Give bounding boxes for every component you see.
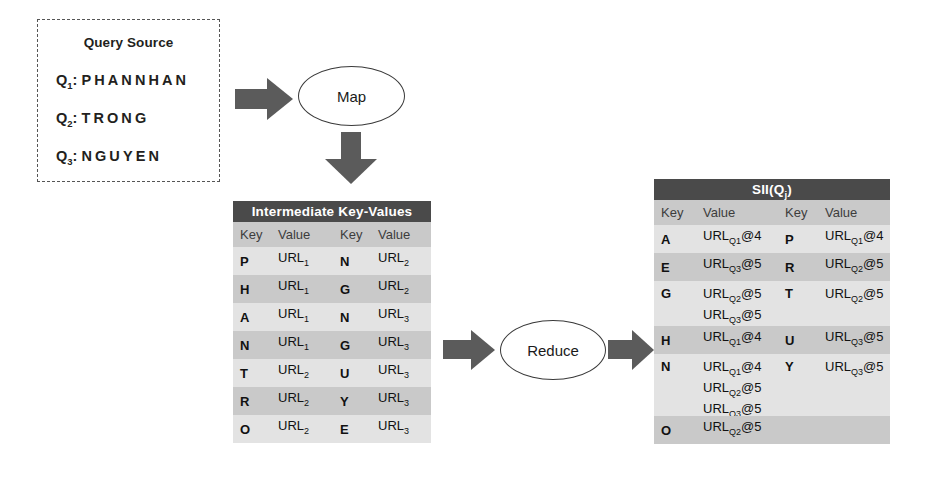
intermediate-key-cell: G bbox=[333, 275, 371, 303]
sii-value-cell: URLQ2@5 bbox=[696, 416, 778, 444]
sii-key-cell: A bbox=[654, 225, 696, 253]
sii-key-cell bbox=[778, 416, 818, 444]
query-label-1: Q1: bbox=[56, 72, 77, 88]
intermediate-value-cell: URL2 bbox=[271, 359, 333, 387]
sii-key-cell: U bbox=[778, 326, 818, 354]
intermediate-key-cell: G bbox=[333, 331, 371, 359]
intermediate-key-cell: Y bbox=[333, 387, 371, 415]
arrow-source-to-map-icon bbox=[235, 78, 293, 120]
map-node-label: Map bbox=[337, 88, 366, 105]
intermediate-key-values-table: Intermediate Key-Values KeyValueKeyValue… bbox=[233, 201, 431, 443]
sii-value-cell: URLQ1@4 bbox=[696, 225, 778, 253]
sii-key-cell: G bbox=[654, 281, 696, 326]
intermediate-value-cell: URL1 bbox=[271, 247, 333, 275]
intermediate-key-cell: T bbox=[233, 359, 271, 387]
sii-key-cell: Y bbox=[778, 354, 818, 416]
intermediate-value-cell: URL1 bbox=[271, 275, 333, 303]
sii-column-header: Value bbox=[818, 200, 890, 225]
intermediate-value-cell: URL3 bbox=[371, 303, 431, 331]
sii-key-cell: E bbox=[654, 253, 696, 281]
intermediate-key-cell: A bbox=[233, 303, 271, 331]
intermediate-value-cell: URL3 bbox=[371, 387, 431, 415]
query-row-3: Q3:NGUYEN bbox=[56, 148, 219, 167]
sii-key-cell: T bbox=[778, 281, 818, 326]
intermediate-value-cell: URL2 bbox=[271, 415, 333, 443]
query-text-1: PHANNHAN bbox=[81, 72, 189, 88]
intermediate-value-cell: URL2 bbox=[271, 387, 333, 415]
query-text-3: NGUYEN bbox=[81, 148, 162, 164]
sii-column-header: Key bbox=[778, 200, 818, 225]
intermediate-column-header: Key bbox=[333, 222, 371, 247]
sii-value-cell: URLQ3@5 bbox=[818, 326, 890, 354]
sii-value-cell: URLQ2@5 bbox=[818, 253, 890, 281]
sii-table-title: SII(Qj) bbox=[654, 179, 890, 200]
intermediate-column-header: Value bbox=[371, 222, 431, 247]
reduce-node-label: Reduce bbox=[527, 342, 579, 359]
intermediate-key-cell: R bbox=[233, 387, 271, 415]
intermediate-value-cell: URL3 bbox=[371, 415, 431, 443]
intermediate-key-cell: N bbox=[333, 303, 371, 331]
query-row-2: Q2:TRONG bbox=[56, 110, 219, 129]
sii-value-cell: URLQ1@4URLQ2@5URLQ3@5 bbox=[696, 354, 778, 416]
sii-value-cell bbox=[818, 416, 890, 444]
arrow-map-to-intermediate-icon bbox=[325, 132, 377, 184]
sii-key-cell: O bbox=[654, 416, 696, 444]
sii-key-cell: R bbox=[778, 253, 818, 281]
query-source-title: Query Source bbox=[38, 35, 219, 50]
intermediate-key-cell: O bbox=[233, 415, 271, 443]
sii-value-cell: URLQ3@5 bbox=[818, 354, 890, 416]
sii-value-cell: URLQ1@4 bbox=[696, 326, 778, 354]
map-node: Map bbox=[298, 66, 405, 126]
intermediate-column-header: Value bbox=[271, 222, 333, 247]
intermediate-key-cell: N bbox=[233, 331, 271, 359]
query-row-1: Q1:PHANNHAN bbox=[56, 72, 219, 91]
sii-value-cell: URLQ3@5 bbox=[696, 253, 778, 281]
intermediate-key-cell: E bbox=[333, 415, 371, 443]
query-source-panel: Query Source Q1:PHANNHAN Q2:TRONG Q3:NGU… bbox=[37, 19, 220, 182]
sii-table-grid: KeyValueKeyValueAURLQ1@4PURLQ1@4EURLQ3@5… bbox=[654, 200, 890, 444]
sii-value-cell: URLQ2@5URLQ3@5 bbox=[696, 281, 778, 326]
arrow-reduce-to-sii-icon bbox=[608, 330, 656, 370]
query-label-3: Q3: bbox=[56, 148, 77, 164]
intermediate-key-cell: H bbox=[233, 275, 271, 303]
sii-table: SII(Qj) KeyValueKeyValueAURLQ1@4PURLQ1@4… bbox=[654, 179, 890, 444]
intermediate-table-title: Intermediate Key-Values bbox=[233, 201, 431, 222]
intermediate-key-cell: N bbox=[333, 247, 371, 275]
intermediate-value-cell: URL1 bbox=[271, 303, 333, 331]
sii-column-header: Key bbox=[654, 200, 696, 225]
intermediate-value-cell: URL2 bbox=[371, 275, 431, 303]
intermediate-key-cell: U bbox=[333, 359, 371, 387]
sii-value-cell: URLQ1@4 bbox=[818, 225, 890, 253]
sii-key-cell: P bbox=[778, 225, 818, 253]
intermediate-value-cell: URL2 bbox=[371, 247, 431, 275]
sii-key-cell: H bbox=[654, 326, 696, 354]
intermediate-value-cell: URL3 bbox=[371, 359, 431, 387]
query-text-2: TRONG bbox=[81, 110, 149, 126]
sii-key-cell: N bbox=[654, 354, 696, 416]
sii-value-cell: URLQ2@5 bbox=[818, 281, 890, 326]
intermediate-column-header: Key bbox=[233, 222, 271, 247]
query-label-2: Q2: bbox=[56, 110, 77, 126]
reduce-node: Reduce bbox=[500, 320, 606, 380]
intermediate-value-cell: URL1 bbox=[271, 331, 333, 359]
intermediate-table-grid: KeyValueKeyValuePURL1NURL2HURL1GURL2AURL… bbox=[233, 222, 431, 443]
arrow-intermediate-to-reduce-icon bbox=[443, 330, 495, 370]
intermediate-key-cell: P bbox=[233, 247, 271, 275]
sii-column-header: Value bbox=[696, 200, 778, 225]
intermediate-value-cell: URL3 bbox=[371, 331, 431, 359]
